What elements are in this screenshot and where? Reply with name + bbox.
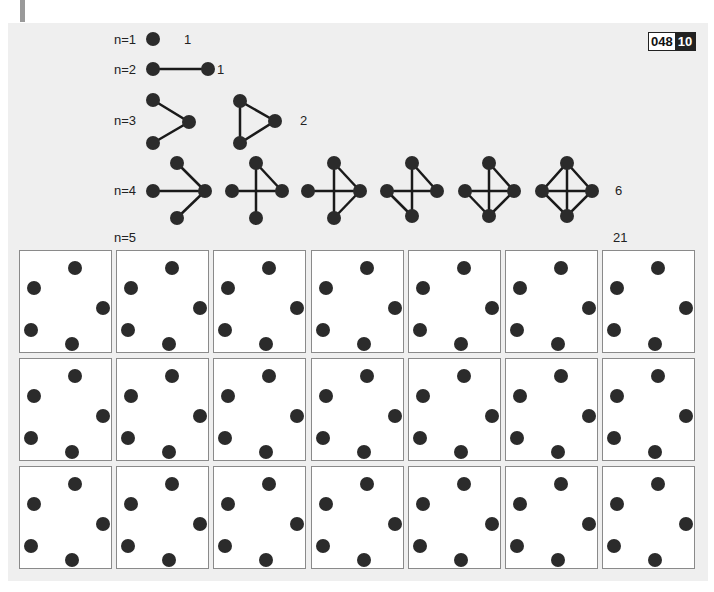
vertex-dot <box>65 553 79 567</box>
vertex-dot <box>648 337 662 351</box>
vertex-dot <box>610 497 624 511</box>
vertex-dot <box>319 389 333 403</box>
vertex-dot <box>259 553 273 567</box>
vertex-dot <box>124 389 138 403</box>
vertex-dot <box>193 301 207 315</box>
vertex-dot <box>316 431 330 445</box>
vertex-dot <box>454 553 468 567</box>
vertex-dot <box>262 261 276 275</box>
vertex-dot <box>413 539 427 553</box>
vertex-dot <box>651 477 665 491</box>
vertex-dot <box>485 301 499 315</box>
vertex-dot <box>554 477 568 491</box>
n5-cell <box>311 466 404 569</box>
vertex-dot <box>648 445 662 459</box>
n5-cell <box>602 466 695 569</box>
vertex-dot <box>121 431 135 445</box>
vertex-dot <box>259 445 273 459</box>
vertex-dot <box>68 261 82 275</box>
vertex-dot <box>485 517 499 531</box>
vertex-dot <box>124 281 138 295</box>
n5-cell <box>19 358 112 461</box>
n5-cell <box>213 250 306 353</box>
vertex-dot <box>388 301 402 315</box>
vertex-dot <box>65 445 79 459</box>
vertex-dot <box>124 497 138 511</box>
n5-cell <box>505 358 598 461</box>
vertex-dot <box>165 261 179 275</box>
vertex-dot <box>24 323 38 337</box>
vertex-dot <box>582 409 596 423</box>
n5-cell <box>311 250 404 353</box>
vertex-dot <box>68 369 82 383</box>
vertex-dot <box>121 539 135 553</box>
vertex-dot <box>360 477 374 491</box>
vertex-dot <box>651 261 665 275</box>
vertex-dot <box>262 477 276 491</box>
vertex-dot <box>162 553 176 567</box>
vertex-dot <box>193 517 207 531</box>
vertex-dot <box>221 389 235 403</box>
vertex-dot <box>513 497 527 511</box>
vertex-dot <box>416 281 430 295</box>
vertex-dot <box>360 369 374 383</box>
n5-cell <box>602 358 695 461</box>
vertex-dot <box>290 409 304 423</box>
vertex-dot <box>607 539 621 553</box>
vertex-dot <box>510 431 524 445</box>
vertex-dot <box>162 445 176 459</box>
vertex-dot <box>388 409 402 423</box>
vertex-dot <box>290 517 304 531</box>
vertex-dot <box>554 369 568 383</box>
vertex-dot <box>551 445 565 459</box>
vertex-dot <box>357 553 371 567</box>
vertex-dot <box>221 281 235 295</box>
vertex-dot <box>551 553 565 567</box>
vertex-dot <box>513 389 527 403</box>
small-graphs <box>0 0 714 250</box>
n5-cell <box>116 466 209 569</box>
n5-cell <box>408 466 501 569</box>
vertex-dot <box>316 323 330 337</box>
vertex-dot <box>582 301 596 315</box>
vertex-dot <box>413 323 427 337</box>
n5-cell <box>116 358 209 461</box>
vertex-dot <box>290 301 304 315</box>
n5-cell <box>213 358 306 461</box>
n5-cell <box>116 250 209 353</box>
vertex-dot <box>27 389 41 403</box>
vertex-dot <box>607 431 621 445</box>
vertex-dot <box>454 337 468 351</box>
vertex-dot <box>316 539 330 553</box>
n5-cell <box>602 250 695 353</box>
vertex-dot <box>193 409 207 423</box>
vertex-dot <box>96 517 110 531</box>
vertex-dot <box>510 323 524 337</box>
n5-cell <box>408 250 501 353</box>
vertex-dot <box>165 369 179 383</box>
vertex-dot <box>413 431 427 445</box>
vertex-dot <box>648 553 662 567</box>
vertex-dot <box>416 497 430 511</box>
vertex-dot <box>96 409 110 423</box>
vertex-dot <box>610 281 624 295</box>
vertex-dot <box>319 281 333 295</box>
vertex-dot <box>218 539 232 553</box>
vertex-dot <box>679 409 693 423</box>
vertex-dot <box>218 323 232 337</box>
vertex-dot <box>27 281 41 295</box>
vertex-dot <box>416 389 430 403</box>
vertex-dot <box>513 281 527 295</box>
vertex-dot <box>68 477 82 491</box>
vertex-dot <box>221 497 235 511</box>
vertex-dot <box>357 337 371 351</box>
vertex-dot <box>651 369 665 383</box>
n5-cell <box>505 466 598 569</box>
vertex-dot <box>388 517 402 531</box>
n5-cell <box>408 358 501 461</box>
vertex-dot <box>457 261 471 275</box>
vertex-dot <box>551 337 565 351</box>
vertex-dot <box>679 301 693 315</box>
vertex-dot <box>121 323 135 337</box>
vertex-dot <box>457 477 471 491</box>
